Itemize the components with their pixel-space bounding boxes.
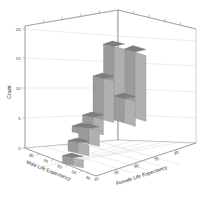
- xtick-label-50: 50: [114, 169, 121, 175]
- count-axis: 0 5 10 15 20 Count: [6, 26, 25, 151]
- ytick-label-80: 80: [28, 152, 35, 159]
- ytick-label-70: 70: [42, 158, 49, 165]
- ztick-label-20: 20: [16, 27, 21, 32]
- histogram-figure: 0 5 10 15 20 Count: [0, 0, 208, 207]
- xtick-label-70: 70: [154, 156, 161, 162]
- xtick-label-60: 60: [134, 163, 141, 169]
- ytick-label-40: 40: [85, 175, 92, 182]
- ztick-label-0: 0: [18, 146, 21, 151]
- ztick-label-15: 15: [16, 56, 21, 61]
- zaxis-title: Count: [6, 85, 12, 99]
- plot-canvas: 0 5 10 15 20 Count: [0, 0, 208, 207]
- xtick-label-80: 80: [174, 149, 181, 155]
- xtick-label-40: 40: [94, 176, 101, 182]
- ztick-label-5: 5: [18, 116, 21, 121]
- ytick-label-50: 50: [71, 169, 78, 176]
- ytick-label-60: 60: [57, 163, 64, 170]
- ztick-label-10: 10: [16, 86, 21, 91]
